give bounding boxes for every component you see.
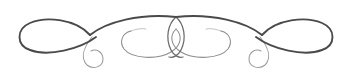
flourish-ornament-svg: [0, 0, 352, 78]
ornament-background: [0, 0, 352, 78]
ornament-figure: Symmetric pen-drawn scroll ornament with…: [0, 0, 352, 78]
